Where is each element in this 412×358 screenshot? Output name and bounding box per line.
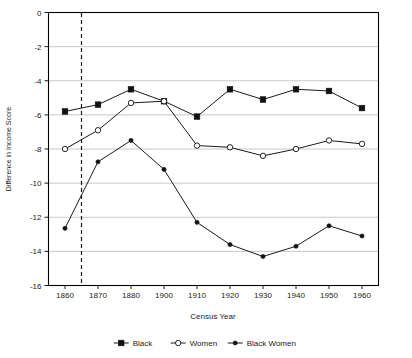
y-tick-label: -16 — [30, 282, 42, 291]
legend-marker — [176, 340, 181, 345]
chart-canvas: 0-2-4-6-8-10-12-14-16 186018701880190019… — [0, 0, 412, 358]
y-tick-label: 0 — [37, 9, 42, 18]
y-tick-label: -4 — [34, 77, 42, 86]
y-axis-title: Difference in Income Score — [5, 107, 12, 191]
data-point-marker — [326, 88, 332, 94]
x-axis-title: Census Year — [190, 312, 236, 321]
data-point-marker — [95, 128, 100, 133]
data-point-marker — [63, 226, 67, 230]
y-tick-label: -2 — [34, 43, 42, 52]
data-point-marker — [326, 138, 331, 143]
x-tick-label: 1930 — [254, 291, 272, 300]
legend-marker — [118, 340, 124, 346]
y-tick-label: -6 — [34, 111, 42, 120]
data-point-marker — [293, 86, 299, 92]
data-point-marker — [359, 105, 365, 111]
data-point-marker — [194, 143, 199, 148]
x-tick-label: 1910 — [188, 291, 206, 300]
legend-label: Black Women — [247, 339, 296, 348]
data-point-marker — [227, 145, 232, 150]
x-tick-label: 1940 — [287, 291, 305, 300]
data-point-marker — [294, 244, 298, 248]
data-point-marker — [62, 146, 67, 151]
x-tick-label: 1950 — [320, 291, 338, 300]
x-tick-label: 1900 — [155, 291, 173, 300]
x-tick-label: 1880 — [122, 291, 140, 300]
data-point-marker — [293, 146, 298, 151]
data-point-marker — [96, 160, 100, 164]
data-point-marker — [161, 99, 166, 104]
data-point-marker — [260, 153, 265, 158]
income-difference-line-chart: 0-2-4-6-8-10-12-14-16 186018701880190019… — [0, 0, 412, 358]
data-point-marker — [128, 86, 134, 92]
data-point-marker — [195, 220, 199, 224]
data-point-marker — [62, 109, 68, 115]
data-point-marker — [359, 141, 364, 146]
data-point-marker — [260, 97, 266, 103]
data-point-marker — [194, 114, 200, 120]
chart-background — [0, 0, 412, 358]
data-point-marker — [360, 234, 364, 238]
x-tick-label: 1960 — [353, 291, 371, 300]
x-tick-label: 1870 — [89, 291, 107, 300]
x-tick-label: 1920 — [221, 291, 239, 300]
data-point-marker — [128, 100, 133, 105]
data-point-marker — [327, 224, 331, 228]
x-tick-label: 1860 — [56, 291, 74, 300]
data-point-marker — [227, 86, 233, 92]
data-point-marker — [129, 138, 133, 142]
data-point-marker — [228, 242, 232, 246]
legend-label: Black — [133, 339, 154, 348]
chart-legend: BlackWomenBlack Women — [114, 339, 296, 348]
y-tick-label: -8 — [34, 145, 42, 154]
y-tick-label: -12 — [30, 213, 42, 222]
data-point-marker — [162, 167, 166, 171]
data-point-marker — [95, 102, 101, 108]
legend-label: Women — [190, 339, 217, 348]
y-tick-label: -14 — [30, 247, 42, 256]
y-tick-label: -10 — [30, 179, 42, 188]
legend-marker — [233, 341, 237, 345]
data-point-marker — [261, 254, 265, 258]
